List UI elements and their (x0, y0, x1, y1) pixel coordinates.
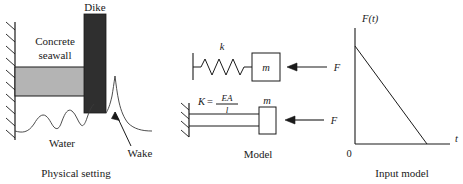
figure-canvas: Dike Concrete seawall Water Wake Physica… (0, 0, 463, 184)
stiffness-lhs-label: K (197, 96, 206, 107)
water-wave-profile (15, 104, 94, 132)
spring-constant-label: k (220, 41, 225, 52)
stiffness-equals-sign: = (207, 96, 213, 107)
wake-label: Wake (128, 147, 153, 159)
water-label: Water (49, 137, 75, 149)
spring-mass-model: k m F (193, 41, 341, 81)
stiffness-numerator-label: EA (221, 93, 233, 103)
force-arrow-top (287, 63, 327, 71)
mass-block-bottom (259, 107, 276, 134)
bar-anchor-hatching (181, 103, 189, 137)
chart-origin-label: 0 (346, 148, 351, 159)
wake-peak-profile (106, 76, 152, 131)
model-caption: Model (244, 148, 273, 160)
panel-model: k m F (181, 41, 341, 160)
force-arrow-bottom (285, 116, 324, 124)
stiffness-formula: K = EA l (197, 93, 238, 115)
spring-coil (193, 59, 252, 75)
dike-column (84, 14, 106, 113)
mass-label-top: m (262, 62, 270, 73)
concrete-seawall-label-line2: seawall (39, 49, 72, 61)
ground-hatching (6, 22, 15, 138)
dike-label: Dike (84, 1, 106, 13)
panel-input-model: F(t) t 0 Input model (346, 13, 459, 179)
panel-physical-setting: Dike Concrete seawall Water Wake Physica… (6, 1, 152, 179)
concrete-seawall-label-line1: Concrete (35, 35, 75, 47)
engineering-figure: Dike Concrete seawall Water Wake Physica… (0, 0, 463, 184)
bar-mass-model: K = EA l m F (181, 93, 338, 137)
chart-x-axis-label: t (455, 133, 459, 144)
mass-label-bottom: m (263, 95, 271, 106)
force-label-top: F (333, 62, 341, 73)
input-model-caption: Input model (375, 167, 428, 179)
wake-pointer-arrow (112, 112, 132, 146)
physical-setting-caption: Physical setting (41, 167, 111, 179)
concrete-seawall-block (15, 67, 94, 96)
chart-force-ramp-line (355, 46, 427, 144)
chart-y-axis-label: F(t) (361, 13, 379, 25)
force-label-bottom: F (330, 115, 338, 126)
